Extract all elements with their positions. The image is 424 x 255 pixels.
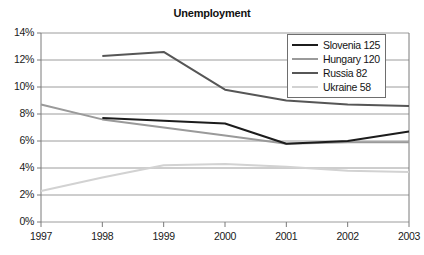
legend-item: Slovenia 125: [292, 38, 380, 52]
legend-label: Ukraine 58: [323, 81, 371, 93]
legend-label: Russia 82: [323, 67, 367, 79]
legend-color-swatch: [292, 44, 318, 46]
chart-container: Unemployment 0%2%4%6%8%10%12%14% 1997199…: [0, 0, 424, 255]
x-axis-tick-label: 2003: [389, 230, 424, 242]
y-axis-tick-label: 14%: [0, 26, 34, 38]
x-axis-tick-label: 1997: [21, 230, 61, 242]
y-axis-tick-label: 8%: [0, 107, 34, 119]
x-axis-tick-label: 2000: [205, 230, 245, 242]
legend-color-swatch: [292, 86, 318, 88]
y-axis-tick-label: 6%: [0, 134, 34, 146]
legend-item: Ukraine 58: [292, 80, 380, 94]
legend-item: Hungary 120: [292, 52, 380, 66]
x-axis-tick-label: 2002: [328, 230, 368, 242]
y-axis-tick-label: 12%: [0, 53, 34, 65]
x-axis-tick-label: 1998: [82, 230, 122, 242]
legend-label: Slovenia 125: [323, 39, 380, 51]
legend-label: Hungary 120: [323, 53, 380, 65]
y-axis-tick-label: 10%: [0, 80, 34, 92]
chart-legend: Slovenia 125Hungary 120Russia 82Ukraine …: [287, 34, 386, 98]
y-axis-tick-label: 4%: [0, 161, 34, 173]
x-axis-tick-label: 2001: [266, 230, 306, 242]
y-axis-tick-label: 0%: [0, 215, 34, 227]
y-axis-tick-label: 2%: [0, 188, 34, 200]
legend-color-swatch: [292, 72, 318, 74]
x-axis-tick-label: 1999: [144, 230, 184, 242]
legend-item: Russia 82: [292, 66, 380, 80]
legend-color-swatch: [292, 58, 318, 60]
